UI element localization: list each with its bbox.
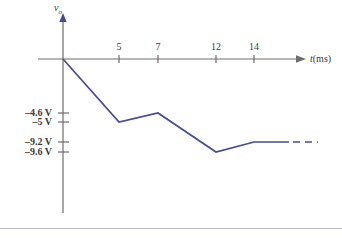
y-axis-label: vo — [54, 3, 62, 16]
x-axis-label: t(ms) — [310, 54, 331, 64]
xtick-label-7: 7 — [156, 42, 161, 52]
ytick-label-neg5: –5 V — [0, 117, 52, 127]
waveform-trace — [63, 59, 289, 152]
x-axis — [38, 55, 306, 63]
ytick-label-neg9-6: –9.6 V — [0, 147, 52, 157]
waveform-figure: vo t(ms) 5 7 12 14 –4.6 V –5 V –9.2 V –9… — [0, 0, 342, 239]
figure-bottom-divider — [0, 228, 342, 229]
xtick-label-5: 5 — [117, 42, 122, 52]
x-axis-label-unit: (ms) — [313, 53, 331, 64]
y-axis-label-subscript: o — [58, 8, 62, 16]
xtick-label-12: 12 — [211, 42, 221, 52]
xtick-label-14: 14 — [249, 42, 259, 52]
